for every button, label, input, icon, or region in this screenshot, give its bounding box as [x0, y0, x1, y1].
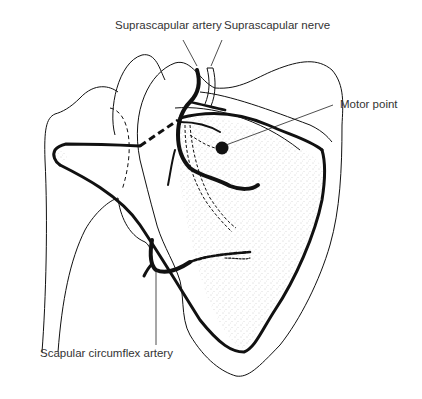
spine-dashed [140, 120, 178, 146]
infraspinous-fossa [178, 116, 325, 350]
anatomy-diagram: Suprascapular artery Suprascapular nerve… [0, 0, 422, 399]
acromion-tip [57, 151, 67, 161]
label-suprascapular-artery: Suprascapular artery [115, 20, 222, 32]
label-motor-point: Motor point [340, 99, 398, 111]
motor-point-marker [216, 142, 229, 155]
label-scapular-circumflex-artery: Scapular circumflex artery [40, 348, 173, 360]
label-suprascapular-nerve: Suprascapular nerve [224, 20, 330, 32]
